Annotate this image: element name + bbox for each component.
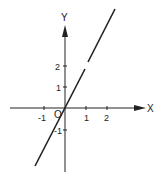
x-tick-label-neg1: -1 <box>38 113 46 123</box>
plot-line-upper <box>88 9 115 62</box>
x-tick-label-1: 1 <box>84 113 89 123</box>
x-tick-label-2: 2 <box>104 113 109 123</box>
graph-diagram: X Y O -1 1 2 2 1 -1 <box>0 0 162 179</box>
y-tick-label-2: 2 <box>55 62 60 72</box>
y-tick-label-neg1: -1 <box>54 126 62 136</box>
origin-label: O <box>54 109 62 120</box>
x-axis-label: X <box>147 103 154 114</box>
y-axis-label: Y <box>61 12 68 23</box>
y-tick-label-1: 1 <box>56 83 61 93</box>
y-axis-arrow-icon <box>62 25 68 37</box>
x-axis-arrow-icon <box>134 105 146 111</box>
